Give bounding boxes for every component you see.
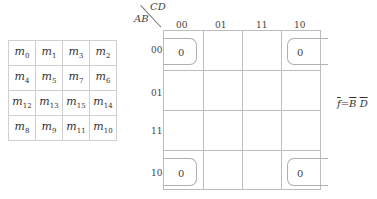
col-label: 01 xyxy=(215,20,226,30)
minterm-cell: m9 xyxy=(36,116,63,141)
minterm-cell: m0 xyxy=(9,41,36,66)
minterm-cell: m10 xyxy=(90,116,117,141)
minterm-cell: m5 xyxy=(36,66,63,91)
col-label: 11 xyxy=(256,20,267,30)
kmap-cell-value: 0 xyxy=(178,168,184,179)
simplified-formula: f=B D xyxy=(337,98,368,109)
row-label: 10 xyxy=(151,168,162,178)
minterm-cell: m1 xyxy=(36,41,63,66)
minterm-cell: m11 xyxy=(63,116,90,141)
row-label: 11 xyxy=(151,126,162,136)
minterm-cell: m2 xyxy=(90,41,117,66)
kmap-cell-value: 0 xyxy=(297,47,303,58)
kmap-cell-value: 0 xyxy=(178,47,184,58)
minterm-cell: m3 xyxy=(63,41,90,66)
minterm-cell: m14 xyxy=(90,91,117,116)
col-var-label: CD xyxy=(150,1,166,12)
minterm-table: m0 m1 m3 m2 m4 m5 m7 m6 m12 m13 m15 m14 … xyxy=(8,40,117,141)
row-label: 00 xyxy=(151,45,162,55)
kmap-cell-value: 0 xyxy=(297,168,303,179)
minterm-cell: m13 xyxy=(36,91,63,116)
col-label: 00 xyxy=(176,20,187,30)
minterm-cell: m8 xyxy=(9,116,36,141)
row-label: 01 xyxy=(151,88,162,98)
minterm-cell: m12 xyxy=(9,91,36,116)
minterm-cell: m4 xyxy=(9,66,36,91)
group-loop xyxy=(287,38,328,65)
col-label: 10 xyxy=(294,20,305,30)
minterm-cell: m6 xyxy=(90,66,117,91)
minterm-cell: m7 xyxy=(63,66,90,91)
minterm-cell: m15 xyxy=(63,91,90,116)
group-loop xyxy=(287,158,328,186)
row-var-label: AB xyxy=(134,13,149,24)
